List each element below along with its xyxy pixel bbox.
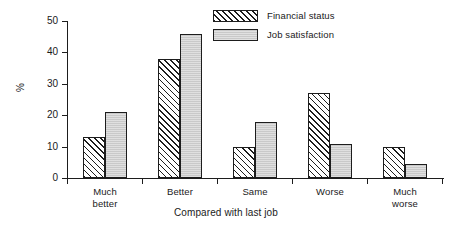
bar-job-satisfaction-much-better: [105, 112, 127, 178]
x-label-worse: Worse: [295, 186, 365, 198]
bar-financial-status-worse: [308, 93, 330, 178]
x-label-better: Better: [145, 186, 215, 198]
bar-job-satisfaction-better: [180, 34, 202, 178]
bar-financial-status-much-worse: [383, 147, 405, 178]
bar-financial-status-same: [233, 147, 255, 178]
x-label-much-worse: Much worse: [370, 186, 440, 209]
x-tick-4: [367, 179, 368, 184]
bar-job-satisfaction-worse: [330, 144, 352, 179]
x-axis-line: [67, 178, 444, 179]
bar-job-satisfaction-much-worse: [405, 164, 427, 178]
bar-financial-status-better: [158, 59, 180, 178]
x-tick-5: [442, 179, 443, 184]
x-label-same: Same: [220, 186, 290, 198]
x-tick-0: [67, 179, 68, 184]
x-tick-1: [142, 179, 143, 184]
x-tick-2: [217, 179, 218, 184]
x-tick-3: [292, 179, 293, 184]
bars-layer: [0, 21, 452, 178]
bar-financial-status-much-better: [83, 137, 105, 178]
x-axis-title: Compared with last job: [0, 207, 452, 218]
x-label-much-better: Much better: [70, 186, 140, 209]
bar-chart: Financial status Job satisfaction 0 10 2…: [0, 0, 452, 236]
bar-job-satisfaction-same: [255, 122, 277, 179]
plot-area: 0 10 20 30 40 50 %: [0, 0, 452, 236]
